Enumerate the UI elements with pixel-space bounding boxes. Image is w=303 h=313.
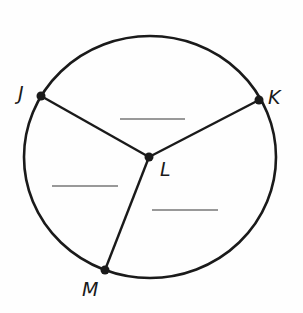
circle-diagram: J K L M: [0, 0, 303, 313]
label-K: K: [268, 88, 280, 107]
label-J: J: [18, 84, 24, 103]
label-M: M: [82, 280, 98, 299]
radius-LJ: [41, 96, 149, 157]
label-L: L: [160, 160, 171, 179]
point-K-dot: [255, 96, 264, 105]
point-J-dot: [37, 92, 46, 101]
diagram-svg: [0, 0, 303, 313]
point-M-dot: [101, 266, 110, 275]
radius-LK: [149, 100, 259, 157]
point-L-dot: [145, 153, 154, 162]
radius-LM: [105, 157, 149, 270]
